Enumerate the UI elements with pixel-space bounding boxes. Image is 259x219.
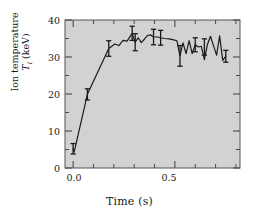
x-axis-title: Time (s) [0, 196, 259, 207]
ytick-label-30: 30 [38, 53, 60, 63]
ion-temperature-line-chart [0, 0, 259, 219]
y-axis-unit: (keV) [20, 33, 31, 62]
ytick-label-40: 40 [38, 16, 60, 26]
y-axis-title-line2: Ti (keV) [20, 33, 31, 70]
y-axis-symbol: T [20, 64, 31, 70]
xtick-label-0.0: 0.0 [57, 173, 91, 183]
chart-figure: 40 30 20 10 0 0.0 0.5 Time (s) Ion tempe… [0, 0, 259, 219]
y-axis-title-line1: Ion temperature [9, 12, 20, 91]
y-axis-title: Ion temperature Ti (keV) [10, 12, 34, 91]
ytick-label-10: 10 [38, 127, 60, 137]
y-axis-symbol-subscript: i [26, 62, 34, 64]
xtick-label-0.5: 0.5 [152, 173, 186, 183]
ytick-label-20: 20 [38, 90, 60, 100]
plot-area-background [65, 20, 240, 168]
y-axis-title-container: Ion temperature Ti (keV) [9, 0, 35, 132]
